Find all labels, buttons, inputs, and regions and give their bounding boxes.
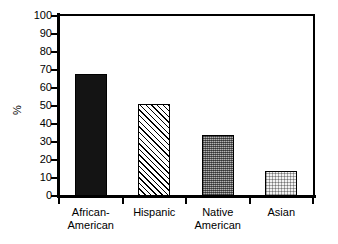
category-label: Asian: [233, 206, 329, 219]
x-tick-mark: [312, 198, 314, 204]
category-label-line2: American: [43, 219, 139, 232]
y-tick-label: 10: [24, 172, 52, 183]
x-tick-mark: [58, 198, 60, 204]
x-tick-mark: [122, 198, 124, 204]
category-label-line2: American: [170, 219, 266, 232]
bars-group: [59, 16, 313, 196]
y-tick-label: 30: [24, 136, 52, 147]
bar-chart: % 0102030405060708090100 African-America…: [0, 0, 338, 244]
y-tick-label: 90: [24, 28, 52, 39]
y-tick-label: 100: [24, 10, 52, 21]
category-label-line1: Native: [202, 206, 233, 218]
y-tick-label: 50: [24, 100, 52, 111]
bar: [138, 104, 170, 196]
bar: [265, 171, 297, 196]
category-label-line1: Asian: [267, 206, 295, 218]
y-tick-label: 60: [24, 82, 52, 93]
x-tick-mark: [249, 198, 251, 204]
y-tick-label: 80: [24, 46, 52, 57]
y-tick-label: 70: [24, 64, 52, 75]
y-tick-label: 40: [24, 118, 52, 129]
y-tick-label: 0: [24, 190, 52, 201]
x-tick-mark: [185, 198, 187, 204]
y-tick-label: 20: [24, 154, 52, 165]
bar: [75, 74, 107, 196]
bar: [202, 135, 234, 196]
category-label-line1: African-: [72, 206, 110, 218]
